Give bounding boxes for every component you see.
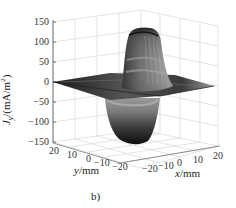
x-tick-label: 20: [213, 151, 223, 161]
x-tick-label: 10: [193, 155, 203, 165]
x-axis-label: x/mm: [175, 167, 200, 179]
figure-caption: b): [91, 190, 100, 202]
z-tick-label: 0: [19, 77, 49, 87]
y-tick-label: −20: [112, 162, 128, 172]
x-tick-label: −10: [158, 161, 174, 171]
y-axis-label: y/mm: [74, 164, 99, 176]
z-tick-label: 100: [19, 37, 49, 47]
z-tick-label: −100: [19, 117, 49, 127]
z-label-unit-close: ): [0, 75, 12, 79]
z-label-var: J: [0, 120, 12, 125]
z-label-sub: y: [6, 117, 15, 121]
z-tick-label: −150: [19, 137, 49, 147]
z-label-sup: 2: [0, 78, 7, 82]
z-axis-label: Jy/(mA/m2): [0, 75, 15, 125]
z-tick-label: 150: [19, 17, 49, 27]
z-tick-label: −50: [19, 97, 49, 107]
z-label-unit: /(mA/m: [0, 82, 12, 117]
z-tick-label: 50: [19, 57, 49, 67]
surface-trough: [105, 98, 160, 144]
y-tick-label: 10: [67, 150, 77, 160]
y-tick-label: 0: [86, 154, 91, 164]
surface-peak: [122, 28, 173, 92]
x-tick-label: −20: [142, 164, 158, 174]
x-label-unit: /mm: [180, 167, 200, 179]
y-label-unit: /mm: [79, 164, 99, 176]
y-tick-label: 20: [49, 146, 59, 156]
